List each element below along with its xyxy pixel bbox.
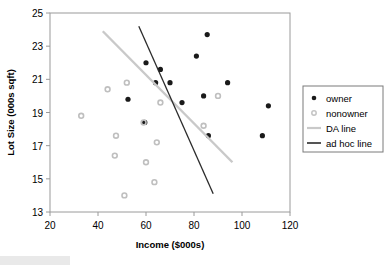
fitted-line-da-line	[103, 31, 233, 162]
data-point-owner	[205, 32, 210, 37]
data-point-nonowner	[114, 133, 119, 138]
legend-label: nonowner	[326, 108, 368, 119]
axis-labels-layer: 1315171921232520406080100120Income ($000…	[5, 8, 299, 250]
data-point-owner	[225, 80, 230, 85]
y-axis-title: Lot Size (000s sqft)	[5, 69, 16, 156]
data-point-owner	[125, 97, 130, 102]
y-tick-label: 13	[32, 207, 44, 218]
legend-label: DA line	[326, 123, 356, 134]
data-point-nonowner	[201, 123, 206, 128]
data-series-layer	[79, 32, 271, 198]
data-point-owner	[260, 133, 265, 138]
fitted-lines-layer	[103, 26, 233, 193]
y-tick-label: 23	[32, 41, 44, 52]
legend-label: owner	[326, 93, 352, 104]
fitted-line-ad-hoc-line	[139, 26, 213, 193]
data-point-nonowner	[152, 180, 157, 185]
y-tick-label: 19	[32, 108, 44, 119]
bottom-strip	[0, 256, 70, 265]
y-tick-label: 15	[32, 174, 44, 185]
data-point-owner	[194, 54, 199, 59]
data-point-nonowner	[105, 87, 110, 92]
y-tick-label: 25	[32, 8, 44, 19]
x-tick-label: 120	[282, 220, 299, 231]
data-point-nonowner	[79, 113, 84, 118]
x-tick-label: 100	[234, 220, 251, 231]
chart-canvas: 1315171921232520406080100120Income ($000…	[0, 0, 388, 265]
x-tick-label: 40	[92, 220, 104, 231]
data-point-nonowner	[122, 193, 127, 198]
x-axis-title: Income ($000s)	[136, 239, 205, 250]
data-point-nonowner	[216, 94, 221, 99]
data-point-owner	[201, 93, 206, 98]
x-tick-label: 80	[188, 220, 200, 231]
data-point-nonowner	[124, 80, 129, 85]
y-tick-label: 21	[32, 74, 44, 85]
data-point-owner	[143, 60, 148, 65]
data-point-nonowner	[154, 140, 159, 145]
data-point-owner	[179, 100, 184, 105]
data-point-owner	[266, 103, 271, 108]
chart-legend: ownernonownerDA linead hoc line	[303, 86, 383, 152]
legend-label: ad hoc line	[326, 138, 372, 149]
x-tick-label: 20	[44, 220, 56, 231]
y-tick-label: 17	[32, 141, 44, 152]
plot-frame	[50, 13, 290, 212]
data-point-owner	[167, 80, 172, 85]
data-point-nonowner	[158, 100, 163, 105]
scatter-chart: 1315171921232520406080100120Income ($000…	[0, 0, 388, 265]
data-point-nonowner	[144, 160, 149, 165]
x-tick-label: 60	[140, 220, 152, 231]
data-point-nonowner	[112, 153, 117, 158]
legend-marker-owner	[312, 96, 317, 101]
